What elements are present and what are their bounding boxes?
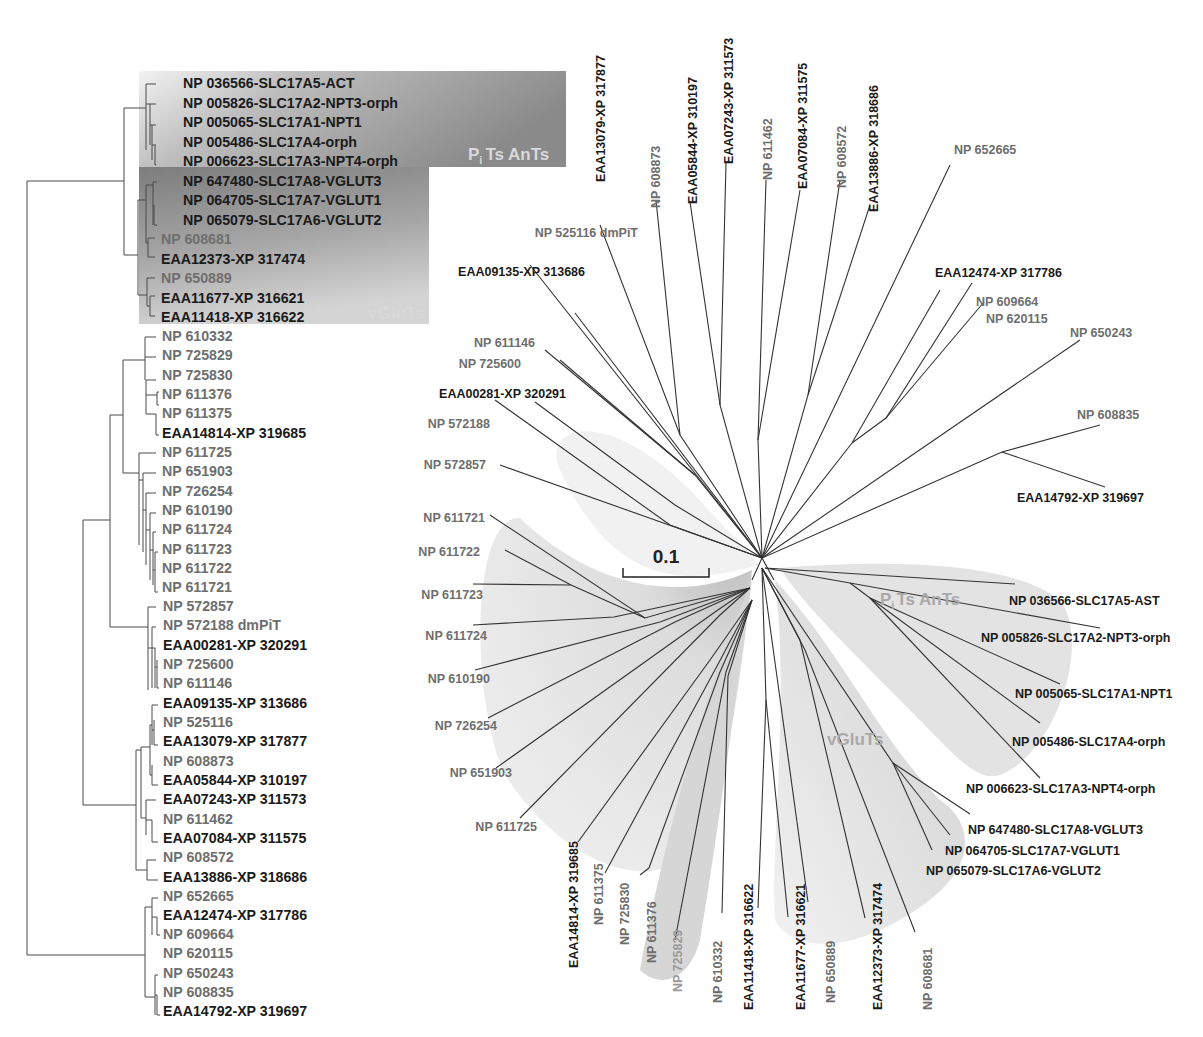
leaf-label: NP 608873 (163, 753, 234, 769)
leaf-label: NP 608681 (161, 231, 232, 247)
leaf-label: EAA07084-XP 311575 (163, 830, 306, 846)
leaf-label: NP 725830 (618, 883, 632, 945)
leaf-label: NP 725600 (459, 357, 521, 371)
leaf-label: EAA12474-XP 317786 (935, 266, 1062, 280)
leaf-label: NP 608572 (163, 849, 234, 865)
rectangular-tree: PiTs AnTs vGluTs (27, 71, 566, 1019)
leaf-label: NP 036566-SLC17A5-ACT (183, 75, 355, 91)
leaf-label: NP 572857 (424, 458, 486, 472)
leaf-label: NP 650889 (824, 941, 838, 1003)
leaf-label: NP 647480-SLC17A8-VGLUT3 (183, 173, 382, 189)
leaf-label: EAA07243-XP 311573 (163, 791, 306, 807)
leaf-label: NP 611723 (421, 588, 483, 602)
leaf-label: NP 611725 (475, 820, 537, 834)
clade-label-vgluts: vGluTs (368, 304, 424, 323)
leaf-label: NP 006623-SLC17A3-NPT4-orph (966, 782, 1155, 796)
leaf-label: NP 611725 (162, 444, 232, 460)
leaf-label: NP 610190 (428, 672, 490, 686)
leaf-label: NP 608873 (649, 146, 663, 208)
leaf-label: NP 611462 (761, 118, 775, 180)
leaf-label: NP 065079-SLC17A6-VGLUT2 (183, 212, 382, 228)
leaf-label: NP 611722 (162, 560, 232, 576)
leaf-label: EAA12474-XP 317786 (163, 907, 307, 923)
leaf-label: NP 064705-SLC17A7-VGLUT1 (945, 844, 1120, 858)
leaf-label: EAA13079-XP 317877 (163, 733, 307, 749)
leaf-label: EAA09135-XP 313686 (458, 265, 585, 279)
leaf-label: NP 725830 (162, 367, 233, 383)
leaf-label: EAA14792-XP 319697 (163, 1003, 307, 1019)
leaf-label: NP 609664 (163, 926, 234, 942)
leaf-label: NP 610332 (162, 328, 233, 344)
leaf-label: NP 611724 (425, 629, 487, 643)
leaf-label: NP 608835 (1077, 408, 1139, 422)
leaf-label: NP 036566-SLC17A5-AST (1009, 594, 1160, 608)
leaf-label: NP 611376 (162, 386, 232, 402)
leaf-label: EAA05844-XP 310197 (686, 77, 700, 204)
leaf-label: EAA11418-XP 316622 (161, 309, 304, 325)
leaf-label: NP 647480-SLC17A8-VGLUT3 (968, 823, 1143, 837)
leaf-label: NP 611721 (162, 579, 232, 595)
leaf-label: EAA14792-XP 319697 (1017, 491, 1144, 505)
leaf-label: NP 608572 (835, 126, 849, 188)
leaf-label: EAA13079-XP 317877 (594, 55, 608, 182)
leaf-label: EAA14814-XP 319685 (162, 425, 306, 441)
leaf-label: NP 572188 (428, 417, 490, 431)
leaf-label: NP 525116 (163, 714, 233, 730)
leaf-label: EAA13886-XP 318686 (163, 869, 307, 885)
leaf-label: NP 005486-SLC17A4-orph (1012, 735, 1165, 749)
leaf-label: NP 725829 (671, 930, 685, 992)
leaf-label: NP 572188 dmPiT (163, 617, 281, 633)
leaf-label: NP 611462 (163, 811, 233, 827)
leaf-label: NP 525116 dmPiT (535, 226, 639, 240)
leaf-label: NP 065079-SLC17A6-VGLUT2 (926, 864, 1101, 878)
leaf-label: NP 005065-SLC17A1-NPT1 (183, 114, 362, 130)
leaf-label: NP 064705-SLC17A7-VGLUT1 (183, 192, 382, 208)
leaf-label: NP 611376 (645, 901, 659, 963)
leaf-label: EAA07243-XP 311573 (722, 38, 736, 164)
leaf-label: EAA00281-XP 320291 (439, 387, 566, 401)
leaf-label: NP 610332 (711, 941, 725, 1003)
radial-clade-label-vgluts: vGluTs (827, 730, 883, 749)
leaf-label: NP 620115 (986, 312, 1048, 326)
leaf-label: EAA00281-XP 320291 (163, 637, 307, 653)
leaf-label: EAA11677-XP 316621 (161, 290, 304, 306)
leaf-label: NP 650243 (1070, 326, 1132, 340)
leaf-label: NP 650889 (161, 270, 232, 286)
leaf-label: EAA13886-XP 318686 (867, 85, 881, 212)
leaf-label: NP 651903 (450, 766, 512, 780)
leaf-label: NP 620115 (163, 945, 233, 961)
leaf-label: NP 726254 (162, 483, 233, 499)
leaf-label: EAA05844-XP 310197 (163, 772, 307, 788)
radial-tree: 0.1 PiTs AnTs vGluTs EAA13079-XP 317877 … (418, 38, 1172, 1010)
leaf-label: EAA11418-XP 316622 (742, 884, 756, 1010)
leaf-label: EAA11677-XP 316621 (794, 884, 808, 1010)
leaf-label: NP 725600 (163, 656, 234, 672)
leaf-label: NP 611375 (162, 405, 232, 421)
leaf-label: NP 572857 (163, 598, 234, 614)
leaf-label: EAA09135-XP 313686 (163, 695, 307, 711)
leaf-label: NP 005065-SLC17A1-NPT1 (1015, 687, 1173, 701)
radial-labels-top: EAA13079-XP 317877 NP 608873 EAA05844-XP… (594, 38, 881, 212)
leaf-label: NP 610190 (162, 502, 233, 518)
leaf-label: NP 611724 (162, 521, 232, 537)
leaf-label: NP 651903 (162, 463, 233, 479)
leaf-label: EAA12373-XP 317474 (871, 883, 885, 1010)
leaf-label: NP 005826-SLC17A2-NPT3-orph (981, 631, 1170, 645)
leaf-label: NP 652665 (163, 888, 234, 904)
leaf-label: NP 611722 (418, 545, 480, 559)
leaf-label: NP 611146 (163, 675, 232, 691)
rectangular-tree-labels: NP 036566-SLC17A5-ACT NP 005826-SLC17A2-… (161, 75, 398, 1019)
leaf-label: NP 725829 (162, 347, 233, 363)
leaf-label: NP 608681 (921, 948, 935, 1010)
leaf-label: NP 608835 (163, 984, 234, 1000)
leaf-label: NP 006623-SLC17A3-NPT4-orph (183, 153, 398, 169)
leaf-label: NP 609664 (976, 295, 1038, 309)
leaf-label: NP 726254 (435, 719, 497, 733)
scale-bar-label: 0.1 (653, 546, 680, 567)
leaf-label: NP 611375 (592, 863, 606, 925)
leaf-label: NP 005486-SLC17A4-orph (183, 134, 357, 150)
leaf-label: EAA14814-XP 319685 (567, 841, 581, 968)
radial-labels-right: NP 652665 EAA12474-XP 317786 NP 609664 N… (926, 143, 1173, 878)
leaf-label: NP 611146 (474, 336, 535, 350)
leaf-label: NP 005826-SLC17A2-NPT3-orph (183, 95, 398, 111)
